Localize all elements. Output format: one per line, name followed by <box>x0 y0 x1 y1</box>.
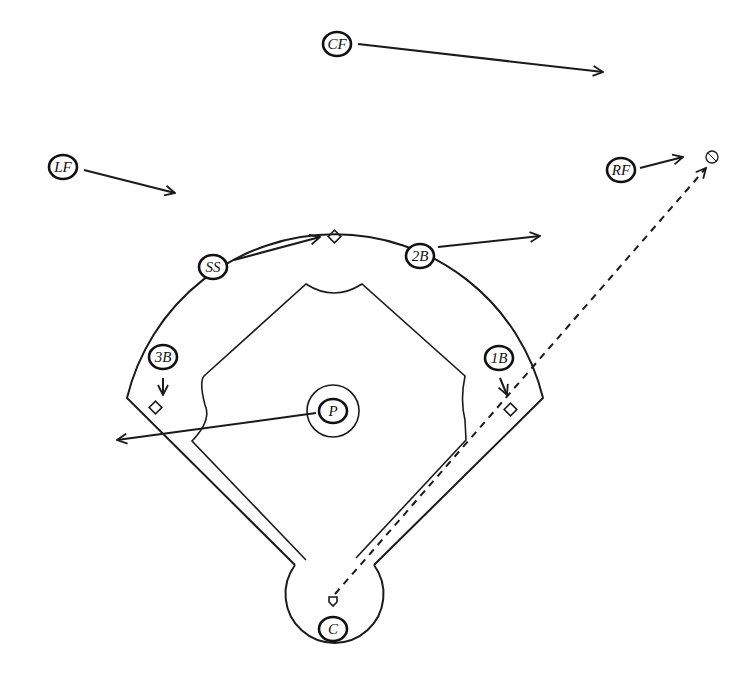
third-base-icon <box>149 401 162 414</box>
baseball-icon <box>706 151 718 163</box>
position-badge-3b: 3B <box>149 345 177 369</box>
rf-arrow <box>640 157 683 168</box>
svg-text:1B: 1B <box>491 350 508 366</box>
svg-text:2B: 2B <box>412 248 429 264</box>
lf-arrow <box>84 170 175 193</box>
ball-path-dashed <box>335 168 706 594</box>
position-badge-ss: SS <box>199 255 227 279</box>
position-badge-lf: LF <box>49 155 77 179</box>
ss-arrow <box>234 237 320 260</box>
svg-text:RF: RF <box>611 162 631 178</box>
second-base-icon <box>328 230 341 243</box>
cf-arrow <box>358 44 603 72</box>
first-base-icon <box>504 403 517 416</box>
position-badge-rf: RF <box>607 158 635 182</box>
position-badge-p: P <box>319 399 347 423</box>
position-badge-1b: 1B <box>485 346 513 370</box>
position-badge-c: C <box>319 617 347 641</box>
position-badge-cf: CF <box>323 32 351 56</box>
position-badge-2b: 2B <box>406 244 434 268</box>
svg-text:C: C <box>328 621 339 637</box>
2b-arrow <box>438 236 540 247</box>
svg-text:SS: SS <box>206 259 222 275</box>
svg-text:P: P <box>327 403 337 419</box>
1b-arrow <box>500 378 507 395</box>
svg-text:CF: CF <box>327 36 347 52</box>
svg-text:LF: LF <box>53 159 72 175</box>
baseball-field-diagram: CF LF RF SS 2B 3B 1B P C <box>0 0 751 700</box>
svg-text:3B: 3B <box>154 349 172 365</box>
home-plate-icon <box>329 597 337 606</box>
